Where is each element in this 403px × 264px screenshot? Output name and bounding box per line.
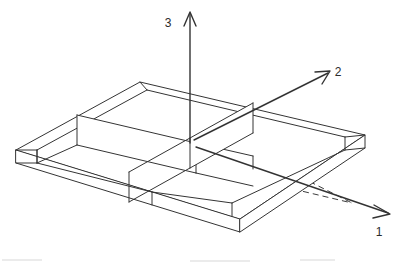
axis-2-label: 2 [335, 65, 342, 79]
axis-3-label: 3 [165, 16, 172, 30]
scan-smudge-bottom-right [300, 259, 335, 261]
scan-artifacts-group [2, 259, 335, 262]
scan-smudge-bottom-mid [190, 260, 250, 262]
isometric-slab-diagram: 3 2 1 [0, 0, 403, 264]
scan-smudge-bottom-left [2, 259, 42, 261]
figure-root: 3 2 1 [0, 0, 403, 264]
axis-1-label: 1 [376, 225, 383, 239]
